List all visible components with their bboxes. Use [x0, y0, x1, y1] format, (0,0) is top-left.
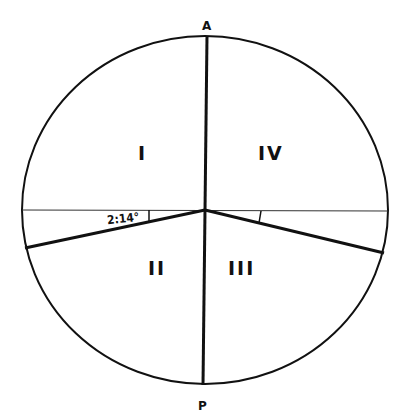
right-angle-tick	[259, 211, 261, 223]
label-anterior: A	[202, 19, 212, 33]
quadrant-label-iv: IV	[258, 142, 284, 164]
quadrant-label-ii: II	[148, 257, 166, 279]
circle-diagram: A P I IV II III 2:14°	[0, 0, 402, 420]
quadrant-label-iii: III	[228, 257, 255, 279]
quadrant-label-i: I	[138, 142, 147, 164]
label-posterior: P	[198, 399, 207, 413]
right-oblique-line	[205, 210, 384, 253]
